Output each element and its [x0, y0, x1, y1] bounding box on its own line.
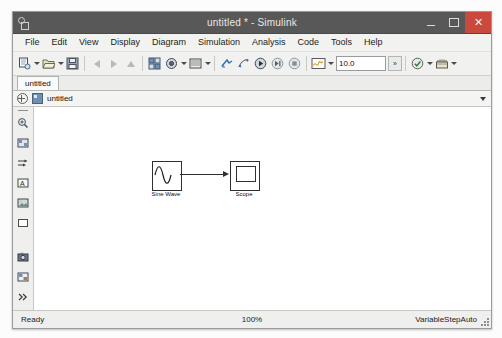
toolbar: 10.0 »	[13, 52, 491, 76]
palette-divider	[18, 110, 28, 111]
model-icon	[32, 93, 43, 104]
breadcrumb-label[interactable]: untitled	[47, 94, 73, 103]
model-configuration-icon[interactable]	[187, 55, 204, 72]
close-button[interactable]: ✕	[465, 12, 491, 33]
signal-route-icon[interactable]	[16, 156, 30, 170]
screen: untitled * - Simulink ✕ File Edit View D…	[0, 0, 502, 338]
menu-edit[interactable]: Edit	[46, 34, 74, 51]
simulink-icon	[17, 16, 31, 30]
toolbar-separator	[84, 56, 85, 71]
camera-icon[interactable]	[16, 250, 30, 264]
simulation-data-inspector-icon[interactable]	[310, 55, 327, 72]
model-explorer-dropdown-icon[interactable]	[180, 55, 187, 72]
zoom-level: 100%	[13, 315, 491, 324]
editor-body: A	[13, 107, 491, 310]
scope-screen-icon	[236, 166, 256, 182]
update-model-icon[interactable]	[218, 55, 235, 72]
canvas-palette: A	[13, 107, 34, 310]
menu-simulation[interactable]: Simulation	[192, 34, 246, 51]
rectangle-icon[interactable]	[16, 216, 30, 230]
signal-line[interactable]	[180, 174, 224, 175]
model-canvas[interactable]: Sine Wave Scope	[34, 107, 491, 310]
menu-tools[interactable]: Tools	[325, 34, 358, 51]
zoom-fit-icon[interactable]	[16, 116, 30, 130]
menu-diagram[interactable]: Diagram	[146, 34, 192, 51]
new-model-icon[interactable]	[16, 55, 33, 72]
title-bar: untitled * - Simulink ✕	[13, 12, 491, 34]
toolbar-separator	[142, 56, 143, 71]
menu-view[interactable]: View	[73, 34, 104, 51]
svg-text:A: A	[20, 180, 25, 187]
expand-circle-icon[interactable]	[17, 93, 28, 104]
menu-file[interactable]: File	[19, 34, 46, 51]
toolbar-separator	[405, 56, 406, 71]
step-forward-icon[interactable]	[269, 55, 286, 72]
build-model-dropdown-icon[interactable]	[450, 55, 457, 72]
tab-strip: untitled	[13, 76, 491, 91]
model-advisor-dropdown-icon[interactable]	[426, 55, 433, 72]
sine-wave-block-label: Sine Wave	[146, 191, 186, 197]
back-arrow-icon[interactable]	[88, 55, 105, 72]
open-model-dropdown-icon[interactable]	[57, 55, 64, 72]
run-icon[interactable]	[252, 55, 269, 72]
library-browser-icon[interactable]	[146, 55, 163, 72]
simulation-data-inspector-dropdown-icon[interactable]	[327, 55, 334, 72]
build-model-icon[interactable]	[433, 55, 450, 72]
scope-block-label: Scope	[231, 191, 257, 197]
fast-restart-icon[interactable]	[235, 55, 252, 72]
menu-analysis[interactable]: Analysis	[246, 34, 292, 51]
simulation-time-expand-button[interactable]: »	[388, 56, 402, 71]
chevron-down-icon[interactable]	[478, 97, 487, 101]
model-configuration-dropdown-icon[interactable]	[204, 55, 211, 72]
scope-block[interactable]	[230, 161, 260, 191]
simulation-time-input[interactable]: 10.0	[336, 56, 386, 71]
menu-bar: File Edit View Display Diagram Simulatio…	[13, 34, 491, 52]
menu-help[interactable]: Help	[358, 34, 389, 51]
toolbar-separator	[214, 56, 215, 71]
new-model-dropdown-icon[interactable]	[33, 55, 40, 72]
more-chevron-icon[interactable]	[16, 290, 30, 304]
forward-arrow-icon[interactable]	[105, 55, 122, 72]
image-icon[interactable]	[16, 196, 30, 210]
model-explorer-icon[interactable]	[163, 55, 180, 72]
subsystem-icon[interactable]	[16, 270, 30, 284]
minimize-button[interactable]	[419, 12, 442, 33]
stop-icon[interactable]	[286, 55, 303, 72]
open-model-icon[interactable]	[40, 55, 57, 72]
signal-arrow-icon	[223, 171, 229, 177]
maximize-button[interactable]	[442, 12, 465, 33]
simulink-window: untitled * - Simulink ✕ File Edit View D…	[12, 11, 492, 329]
resize-grip-icon[interactable]	[481, 318, 489, 326]
tab-untitled[interactable]: untitled	[17, 76, 59, 90]
fit-to-view-icon[interactable]	[16, 136, 30, 150]
model-advisor-icon[interactable]	[409, 55, 426, 72]
sine-wave-block[interactable]	[152, 161, 182, 191]
status-bar: Ready 100% VariableStepAuto	[13, 310, 491, 328]
save-icon[interactable]	[64, 55, 81, 72]
up-arrow-icon[interactable]	[122, 55, 139, 72]
menu-code[interactable]: Code	[291, 34, 325, 51]
annotation-icon[interactable]: A	[16, 176, 30, 190]
breadcrumb: untitled	[13, 91, 491, 107]
toolbar-separator	[306, 56, 307, 71]
menu-display[interactable]: Display	[104, 34, 146, 51]
